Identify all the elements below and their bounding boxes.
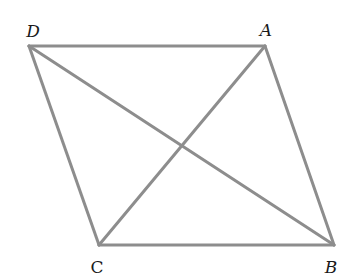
- side-cd: [29, 46, 99, 245]
- diagonal-ac: [99, 46, 265, 245]
- diagonals: [29, 46, 334, 245]
- parallelogram-diagram: D A C B: [0, 0, 353, 279]
- label-b: B: [324, 257, 338, 277]
- label-a: A: [258, 20, 272, 40]
- side-ab: [265, 46, 334, 245]
- label-c: C: [90, 257, 103, 277]
- label-d: D: [25, 21, 40, 41]
